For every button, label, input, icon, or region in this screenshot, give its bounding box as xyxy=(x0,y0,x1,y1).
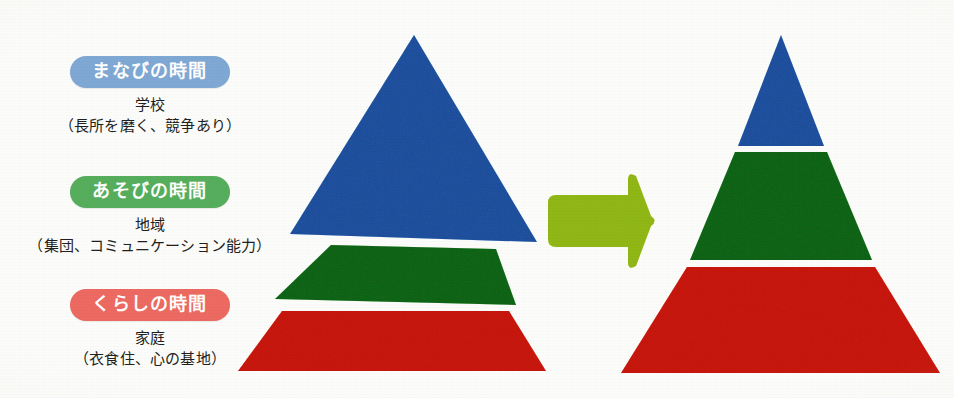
transformation-arrow xyxy=(548,174,655,268)
legend-item-living: くらしの時間 家庭 （衣食住、心の基地） xyxy=(0,289,300,369)
legend-note-play: （集団、コミュニケーション能力） xyxy=(0,236,300,256)
legend-item-play: あそびの時間 地域 （集団、コミュニケーション能力） xyxy=(0,176,300,256)
legend-note-learning: （長所を磨く、競争あり） xyxy=(0,116,300,136)
legend-source-learning: 学校 xyxy=(0,95,300,115)
pyramid-after-layer-play xyxy=(690,152,872,260)
diagram-canvas: まなびの時間 学校 （長所を磨く、競争あり） あそびの時間 地域 （集団、コミュ… xyxy=(0,0,954,398)
pyramid-after xyxy=(621,35,940,373)
arrow-right-icon xyxy=(548,174,655,268)
legend-source-play: 地域 xyxy=(0,215,300,235)
legend-pill-play: あそびの時間 xyxy=(70,176,229,208)
pyramid-before-layer-play xyxy=(275,245,516,305)
pyramid-before-layer-learning xyxy=(290,35,537,242)
pyramid-after-layer-learning xyxy=(738,35,824,146)
pyramid-after-layer-living xyxy=(621,267,940,373)
legend-item-learning: まなびの時間 学校 （長所を磨く、競争あり） xyxy=(0,56,300,136)
legend-note-living: （衣食住、心の基地） xyxy=(0,349,300,369)
legend: まなびの時間 学校 （長所を磨く、競争あり） あそびの時間 地域 （集団、コミュ… xyxy=(0,0,300,398)
legend-pill-living: くらしの時間 xyxy=(70,289,229,321)
legend-source-living: 家庭 xyxy=(0,328,300,348)
legend-pill-learning: まなびの時間 xyxy=(70,56,229,88)
